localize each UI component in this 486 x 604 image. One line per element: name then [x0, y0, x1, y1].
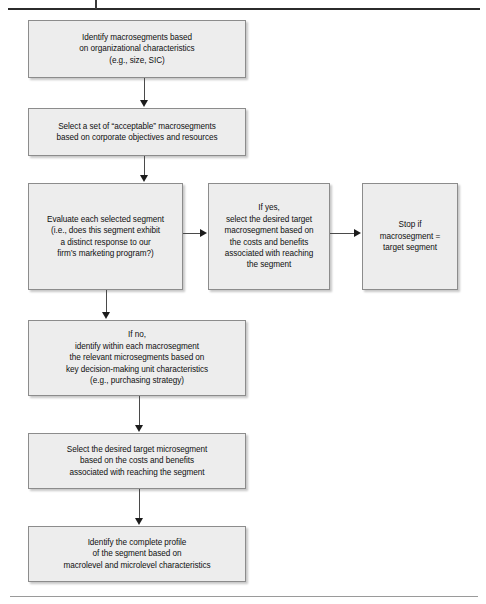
- arrowhead-n3-to-n6-icon: [102, 312, 110, 319]
- bottom-divider-rule: [10, 596, 478, 597]
- arrowhead-n4-to-n5-icon: [354, 229, 361, 237]
- top-rule-tick-mark: [95, 0, 97, 9]
- node-if-no-identify-microsegments: If no, identify within each macrosegment…: [28, 320, 246, 396]
- node-identify-complete-profile-label: Identify the complete profile of the seg…: [63, 537, 210, 571]
- connector-n3-to-n4: [183, 233, 201, 234]
- node-select-desired-target-microsegment: Select the desired target microsegment b…: [28, 433, 246, 489]
- connector-n6-to-n7: [139, 396, 140, 426]
- node-select-acceptable-macrosegments: Select a set of “acceptable” macrosegmen…: [28, 108, 246, 156]
- node-select-acceptable-macrosegments-label: Select a set of “acceptable” macrosegmen…: [56, 121, 217, 144]
- node-evaluate-each-selected-segment: Evaluate each selected segment (i.e., do…: [28, 183, 183, 290]
- node-evaluate-each-selected-segment-label: Evaluate each selected segment (i.e., do…: [47, 214, 164, 260]
- node-if-yes-select-target-macrosegment-label: If yes, select the desired target macros…: [224, 202, 313, 270]
- connector-n2-to-n3: [144, 156, 145, 176]
- connector-n3-to-n6: [106, 290, 107, 313]
- arrowhead-n1-to-n2-icon: [140, 100, 148, 107]
- arrowhead-n6-to-n7-icon: [135, 425, 143, 432]
- connector-n4-to-n5: [330, 233, 355, 234]
- node-identify-complete-profile: Identify the complete profile of the seg…: [28, 526, 246, 582]
- top-divider-rule: [8, 8, 480, 10]
- flowchart-page: Identify macrosegments based on organiza…: [0, 0, 486, 604]
- arrowhead-n3-to-n4-icon: [200, 229, 207, 237]
- connector-n1-to-n2: [144, 78, 145, 101]
- node-select-desired-target-microsegment-label: Select the desired target microsegment b…: [67, 444, 208, 478]
- node-stop-if-macrosegment-equals-target: Stop if macrosegment = target segment: [362, 183, 458, 290]
- node-identify-macrosegments-label: Identify macrosegments based on organiza…: [79, 32, 194, 66]
- node-if-no-identify-microsegments-label: If no, identify within each macrosegment…: [66, 329, 208, 386]
- arrowhead-n2-to-n3-icon: [140, 175, 148, 182]
- connector-n7-to-n8: [139, 489, 140, 519]
- node-stop-if-macrosegment-equals-target-label: Stop if macrosegment = target segment: [380, 219, 441, 253]
- node-identify-macrosegments: Identify macrosegments based on organiza…: [28, 20, 246, 78]
- node-if-yes-select-target-macrosegment: If yes, select the desired target macros…: [208, 183, 330, 290]
- arrowhead-n7-to-n8-icon: [135, 518, 143, 525]
